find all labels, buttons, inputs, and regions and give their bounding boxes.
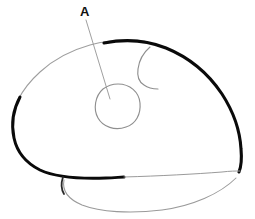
figure-background (0, 0, 255, 219)
figure-canvas: A (0, 0, 255, 219)
line-drawing-svg (0, 0, 255, 219)
callout-label-a: A (80, 5, 89, 18)
